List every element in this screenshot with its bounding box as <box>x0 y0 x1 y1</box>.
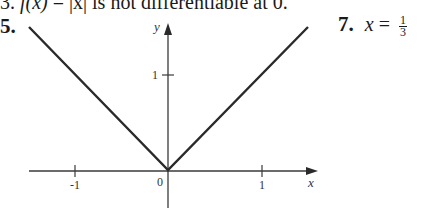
abs-value-graph: -1 0 1 1 x y <box>0 0 428 208</box>
x-axis-arrow-icon <box>306 167 318 175</box>
x-axis-label: x <box>307 175 314 190</box>
y-axis-label: y <box>152 19 160 34</box>
x-tick-label-0: 0 <box>157 175 163 189</box>
y-tick-label-1: 1 <box>152 68 158 82</box>
y-axis-arrow-icon <box>164 23 172 35</box>
x-tick-label-1: 1 <box>259 178 265 192</box>
x-tick-label-neg1: -1 <box>70 178 80 192</box>
